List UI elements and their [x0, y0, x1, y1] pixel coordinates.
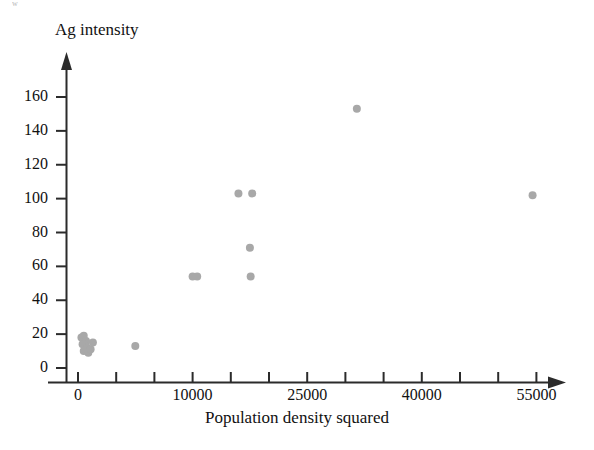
x-axis-tick-label: 10000 [153, 386, 233, 404]
y-axis-tick-label: 160 [2, 87, 48, 105]
y-axis-arrowhead [61, 52, 72, 70]
y-axis-tick-label: 80 [2, 223, 48, 241]
y-axis-ticks [56, 97, 67, 368]
x-axis-ticks [78, 372, 536, 383]
x-axis-tick-label: 25000 [267, 386, 347, 404]
y-axis-tick-label: 120 [2, 155, 48, 173]
scatter-chart: w Ag intensity Population density square… [0, 0, 594, 450]
data-point [247, 273, 255, 281]
data-point [248, 190, 256, 198]
data-point [89, 339, 97, 347]
data-point [529, 191, 537, 199]
data-point [87, 345, 95, 353]
plot-area [0, 0, 594, 450]
x-axis-tick-label: 55000 [496, 386, 576, 404]
y-axis-tick-label: 20 [2, 324, 48, 342]
y-axis-tick-label: 40 [2, 290, 48, 308]
axis-lines [48, 52, 566, 389]
y-axis-tick-label: 140 [2, 121, 48, 139]
y-axis-tick-label: 0 [2, 358, 48, 376]
y-axis-tick-label: 60 [2, 256, 48, 274]
data-point [234, 190, 242, 198]
x-axis-tick-label: 0 [38, 386, 118, 404]
data-point-group [77, 105, 536, 357]
data-point [193, 273, 201, 281]
y-axis-tick-label: 100 [2, 189, 48, 207]
x-axis-tick-label: 40000 [382, 386, 462, 404]
data-point [353, 105, 361, 113]
data-point [246, 244, 254, 252]
data-point [131, 342, 139, 350]
